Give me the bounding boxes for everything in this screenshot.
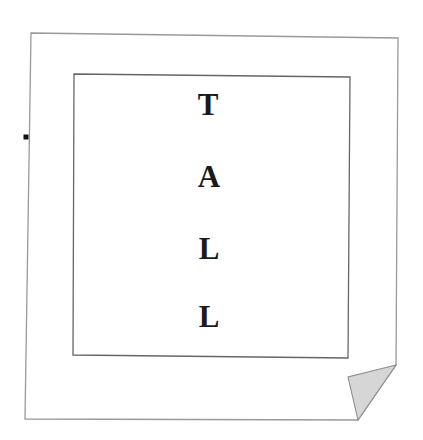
paper-illustration: T A L L [0,0,423,440]
letter-4: L [199,299,220,334]
letter-1: T [198,87,219,122]
letter-3: L [199,231,220,266]
left-edge-marker-dot [24,135,29,140]
image-canvas: T A L L [0,0,423,440]
letter-2: A [198,159,221,194]
